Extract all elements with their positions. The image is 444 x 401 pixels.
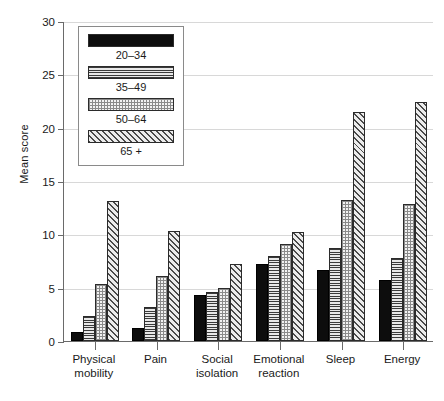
y-tick-label: 30: [42, 16, 55, 28]
legend-item-20-34: 20–34: [88, 34, 174, 63]
y-tick-label: 5: [49, 283, 55, 295]
bar: [415, 102, 427, 341]
y-tick-label: 10: [42, 229, 55, 241]
bar: [218, 288, 230, 341]
legend-swatch-50-64: [88, 98, 174, 111]
legend-swatch-35-49: [88, 66, 174, 79]
bar: [292, 232, 304, 341]
legend-label-20-34: 20–34: [88, 47, 174, 63]
bar: [230, 264, 242, 341]
bar: [194, 295, 206, 341]
y-tick-label: 15: [42, 176, 55, 188]
x-tick-mark: [280, 341, 281, 350]
bar-chart: Mean score 051015202530 Physical mobilit…: [0, 0, 444, 401]
x-tick-mark: [342, 341, 343, 350]
bar: [144, 307, 156, 341]
bar: [317, 270, 329, 341]
bar: [107, 201, 119, 341]
x-tick-mark: [403, 341, 404, 350]
bar: [168, 231, 180, 341]
bar-group: [249, 22, 311, 341]
bar: [353, 112, 365, 341]
x-tick-mark: [157, 341, 158, 350]
bar: [132, 328, 144, 341]
bar: [156, 276, 168, 341]
legend-swatch-20-34: [88, 34, 174, 47]
legend-item-65-plus: 65 +: [88, 130, 174, 159]
bar: [280, 244, 292, 341]
y-tick-mark: [58, 342, 64, 343]
bar: [391, 258, 403, 341]
bar: [256, 264, 268, 341]
bar: [329, 248, 341, 341]
bar: [95, 284, 107, 341]
legend-item-50-64: 50–64: [88, 98, 174, 127]
bar-group: [187, 22, 249, 341]
bar: [341, 200, 353, 341]
legend: 20–34 35–49 50–64 65 +: [78, 26, 184, 166]
y-tick-label: 20: [42, 123, 55, 135]
x-axis-label: Energy: [357, 352, 444, 366]
y-tick-label: 25: [42, 69, 55, 81]
bar: [71, 332, 83, 341]
x-tick-mark: [95, 341, 96, 350]
bar-group: [311, 22, 373, 341]
bar: [83, 316, 95, 341]
legend-label-50-64: 50–64: [88, 111, 174, 127]
legend-item-35-49: 35–49: [88, 66, 174, 95]
x-tick-mark: [218, 341, 219, 350]
legend-label-65-plus: 65 +: [88, 143, 174, 159]
bar: [268, 256, 280, 341]
bar-group: [372, 22, 434, 341]
y-tick-label: 0: [49, 336, 55, 348]
bar: [206, 292, 218, 341]
bar: [379, 280, 391, 341]
legend-swatch-65-plus: [88, 130, 174, 143]
legend-label-35-49: 35–49: [88, 79, 174, 95]
bar: [403, 204, 415, 341]
y-axis-title: Mean score: [18, 94, 30, 214]
